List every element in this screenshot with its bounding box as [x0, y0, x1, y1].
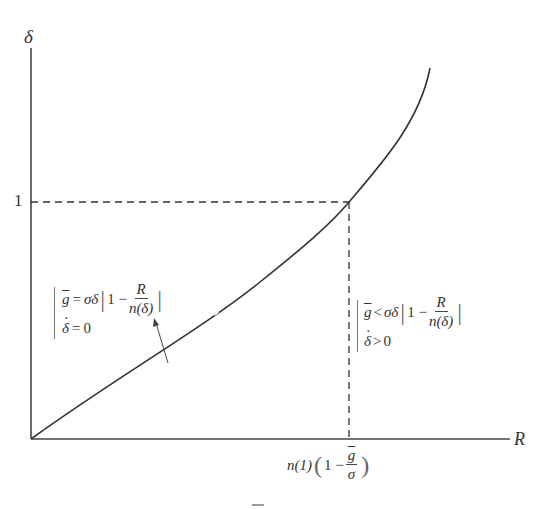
right-eq2-lhs: δ — [364, 333, 371, 350]
right-eq1-open-brace: | — [400, 299, 405, 326]
x-tick-prefix: n(1) — [287, 457, 312, 474]
right-eq1-frac-num: R — [435, 295, 448, 312]
right-eq1-fraction: R n(δ) — [429, 295, 453, 329]
x-tick-frac-den: σ — [348, 465, 355, 482]
y-tick-label: 1 — [14, 191, 23, 211]
right-eq2-rhs: 0 — [383, 333, 391, 350]
left-eq1-rhs: σδ — [84, 291, 98, 308]
left-eq1-fraction: R n(δ) — [129, 282, 153, 316]
x-axis-label: R — [514, 429, 525, 450]
right-region-brace — [357, 300, 358, 352]
right-eq1-one-minus: 1 − — [407, 304, 427, 321]
right-region-equations: g < σδ | 1 − R n(δ) | δ > 0 — [364, 296, 464, 354]
right-eq1-rhs: σδ — [384, 304, 398, 321]
x-tick-label: n(1) ( 1 − g σ ) — [287, 447, 371, 483]
right-eq1-op: < — [374, 304, 382, 321]
left-eq1-frac-den: n(δ) — [129, 299, 153, 316]
right-eq1-frac-den: n(δ) — [429, 312, 453, 329]
left-eq1-close-brace: | — [157, 286, 162, 313]
g-delta-curve — [31, 68, 430, 439]
x-tick-frac-num: g — [346, 448, 358, 465]
left-eq2-lhs: δ — [62, 320, 69, 337]
x-tick-open-paren: ( — [314, 452, 322, 479]
left-region-equations: g = σδ | 1 − R n(δ) | δ = 0 — [62, 283, 164, 341]
left-eq1-frac-num: R — [135, 282, 148, 299]
left-eq1-open-brace: | — [100, 286, 105, 313]
left-eq2-op: = — [72, 320, 80, 337]
x-tick-one-minus: 1 − — [324, 457, 344, 474]
y-axis-label: δ — [24, 26, 33, 48]
right-eq2-op: > — [373, 333, 381, 350]
x-tick-close-paren: ) — [361, 452, 369, 479]
left-eq2-rhs: 0 — [83, 320, 91, 337]
left-eq1-one-minus: 1 − — [107, 291, 127, 308]
x-tick-fraction: g σ — [346, 448, 358, 482]
left-region-brace — [54, 287, 55, 339]
left-eq1-lhs: g — [62, 291, 70, 308]
left-eq1-op: = — [73, 291, 81, 308]
diagram-canvas — [0, 0, 541, 509]
right-eq1-close-brace: | — [457, 299, 462, 326]
right-eq1-lhs: g — [364, 304, 372, 321]
